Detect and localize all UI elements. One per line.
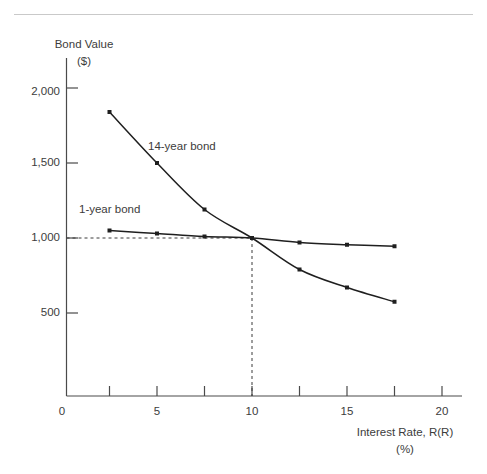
intersection-guide-lines [67, 238, 253, 396]
data-point-marker [155, 232, 159, 236]
data-point-marker [250, 236, 254, 240]
x-axis-ticks [110, 386, 443, 396]
data-point-marker [298, 268, 302, 272]
data-point-marker [203, 208, 207, 212]
series-line-14-year-bond [110, 112, 395, 302]
data-point-marker [108, 229, 112, 233]
data-point-marker [298, 241, 302, 245]
data-point-marker [155, 161, 159, 165]
data-point-marker [203, 235, 207, 239]
data-point-marker [393, 300, 397, 304]
y-axis-ticks [67, 88, 79, 313]
data-point-marker [108, 110, 112, 114]
data-point-marker [393, 244, 397, 248]
plot-area [0, 0, 487, 474]
bond-value-chart-figure: Bond Value ($) 2,000 1,500 1,000 500 0 5… [0, 0, 487, 474]
data-point-marker [345, 286, 349, 290]
data-point-marker [345, 243, 349, 247]
